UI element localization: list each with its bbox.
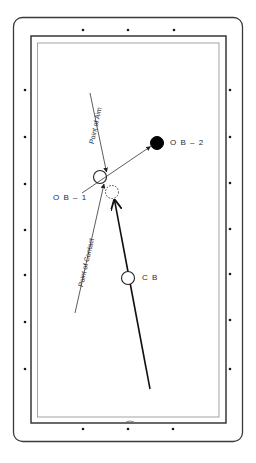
diamond-right bbox=[229, 228, 232, 231]
cue-ball-path bbox=[115, 200, 151, 389]
table-rail bbox=[14, 18, 243, 442]
diamond-left bbox=[24, 229, 27, 232]
diamond-bottom bbox=[127, 428, 130, 431]
table-svg bbox=[0, 0, 256, 463]
diamond-bottom bbox=[172, 428, 175, 431]
cushion-border bbox=[31, 36, 226, 423]
diamond-right bbox=[229, 89, 232, 92]
cb-label: C B bbox=[142, 273, 158, 282]
diamond-right bbox=[229, 136, 232, 139]
billiards-diagram: O B – 2 O B – 1 C B Point of Aim Point o… bbox=[0, 0, 256, 463]
object-ball-2 bbox=[151, 137, 164, 150]
diamond-left bbox=[24, 183, 27, 186]
diamond-left bbox=[24, 368, 27, 371]
diamond-right bbox=[229, 182, 232, 185]
ob1-to-ob2-path bbox=[82, 147, 151, 194]
ob2-label: O B – 2 bbox=[170, 138, 204, 147]
ghost-ball bbox=[106, 186, 119, 199]
cue-ball bbox=[122, 272, 135, 285]
bottom-center-mark bbox=[126, 421, 134, 422]
diamond-right bbox=[229, 319, 232, 322]
ob1-label: O B – 1 bbox=[53, 193, 87, 202]
diamond-top bbox=[127, 29, 130, 32]
playing-surface-border bbox=[38, 43, 220, 417]
diamond-left bbox=[24, 321, 27, 324]
diamond-left bbox=[24, 89, 27, 92]
diamond-left bbox=[24, 274, 27, 277]
diamond-left bbox=[24, 136, 27, 139]
diamond-bottom bbox=[82, 428, 85, 431]
diamond-top bbox=[82, 29, 85, 32]
object-ball-1 bbox=[94, 171, 107, 184]
diamond-markers bbox=[24, 29, 232, 431]
diamond-right bbox=[229, 273, 232, 276]
diamond-right bbox=[229, 368, 232, 371]
diamond-top bbox=[173, 29, 176, 32]
